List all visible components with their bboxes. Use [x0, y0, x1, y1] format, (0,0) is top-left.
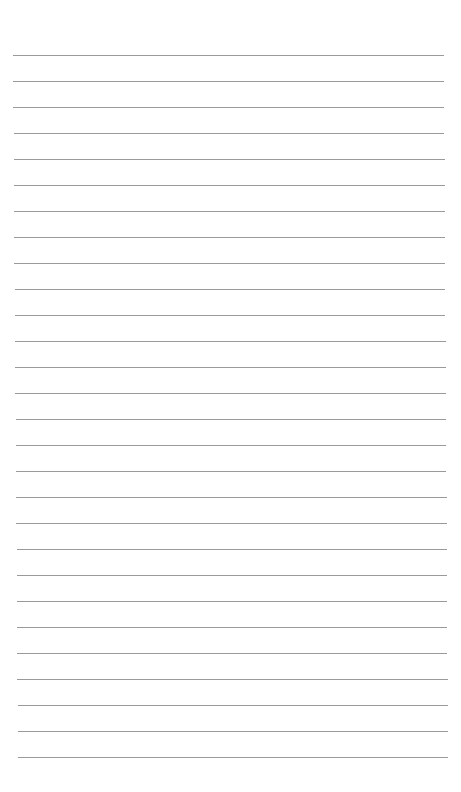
ruled-line — [14, 237, 445, 238]
ruled-line — [17, 653, 447, 654]
ruled-line — [15, 289, 446, 290]
ruled-line — [18, 757, 448, 758]
ruled-line — [16, 471, 446, 472]
ruled-line — [13, 107, 444, 108]
ruled-line — [14, 159, 445, 160]
ruled-line — [17, 627, 447, 628]
ruled-line — [15, 367, 446, 368]
ruled-line — [15, 341, 446, 342]
ruled-line — [14, 211, 445, 212]
ruled-line — [18, 731, 448, 732]
ruled-line — [16, 497, 446, 498]
ruled-line — [16, 523, 446, 524]
ruled-line — [13, 81, 444, 82]
ruled-line — [16, 445, 446, 446]
ruled-line — [17, 601, 447, 602]
ruled-line — [17, 549, 447, 550]
ruled-line — [16, 419, 446, 420]
ruled-line — [14, 133, 445, 134]
ruled-line — [17, 679, 447, 680]
ruled-paper-page — [0, 0, 461, 792]
ruled-line — [15, 315, 446, 316]
ruled-line — [14, 185, 445, 186]
ruled-line — [18, 705, 448, 706]
ruled-line — [14, 263, 445, 264]
ruled-line — [13, 55, 444, 56]
ruled-line — [15, 393, 446, 394]
ruled-line — [17, 575, 447, 576]
